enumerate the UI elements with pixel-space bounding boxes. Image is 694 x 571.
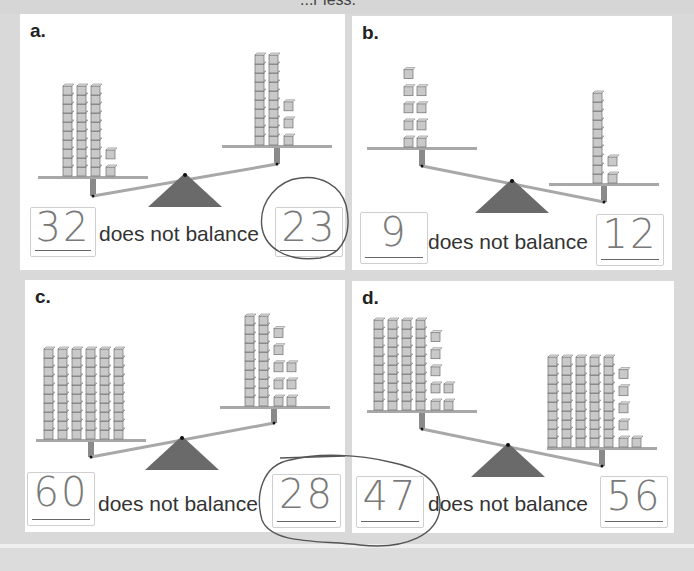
- problem-b-panel: b. 9 does not balance 12: [352, 16, 672, 270]
- left-answer-box[interactable]: 32: [30, 207, 96, 257]
- left-answer: 32: [31, 204, 95, 250]
- left-answer: 60: [28, 469, 94, 515]
- left-answer: 9: [361, 209, 427, 255]
- right-answer-box[interactable]: 56: [600, 476, 668, 528]
- right-answer: 23: [276, 204, 342, 250]
- right-answer-box[interactable]: 28: [272, 474, 341, 528]
- header-strip: ...r less.: [0, 0, 694, 14]
- problem-d-panel: d. 47 does not balance 56: [352, 281, 674, 533]
- problem-a-panel: a. 32 does not balance 23: [20, 14, 345, 270]
- left-answer-box[interactable]: 60: [27, 472, 95, 526]
- right-answer: 56: [601, 473, 667, 519]
- comparison-caption: does not balance: [98, 492, 258, 516]
- right-answer-box[interactable]: 23: [275, 207, 343, 257]
- comparison-caption: does not balance: [99, 222, 259, 246]
- comparison-caption: does not balance: [428, 230, 588, 254]
- bottom-strip: [0, 544, 694, 571]
- right-answer: 28: [273, 471, 340, 517]
- left-answer-box[interactable]: 47: [356, 476, 424, 528]
- comparison-caption: does not balance: [428, 492, 588, 516]
- right-answer: 12: [597, 211, 663, 257]
- problem-c-panel: c. 60 does not balance 28: [25, 280, 345, 532]
- right-answer-box[interactable]: 12: [596, 214, 664, 266]
- header-fragment: ...r less.: [300, 0, 356, 9]
- left-answer-box[interactable]: 9: [360, 212, 428, 264]
- left-answer: 47: [357, 473, 423, 519]
